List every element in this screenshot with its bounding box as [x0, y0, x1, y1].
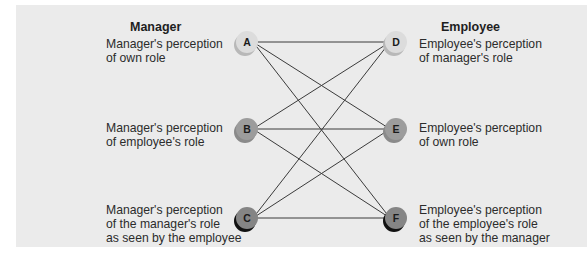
node-b: B	[234, 118, 258, 143]
node-e: E	[383, 118, 407, 143]
node-c: C	[234, 207, 258, 232]
node-a: A	[234, 31, 258, 56]
connection-graph: ABCDEF	[0, 0, 587, 259]
svg-text:A: A	[243, 36, 251, 48]
svg-text:D: D	[392, 36, 400, 48]
svg-text:E: E	[392, 123, 399, 135]
node-d: D	[383, 31, 407, 56]
svg-text:B: B	[243, 123, 251, 135]
svg-text:C: C	[243, 212, 251, 224]
connection-lines	[253, 42, 390, 218]
svg-text:F: F	[393, 212, 400, 224]
node-f: F	[383, 207, 407, 232]
